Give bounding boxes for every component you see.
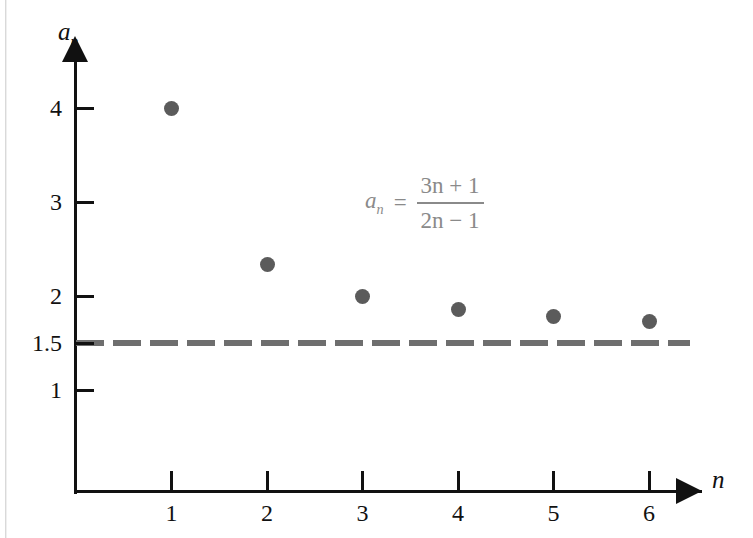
y-axis-tick-label: 3: [0, 189, 62, 216]
formula-lhs: an: [365, 188, 384, 218]
y-axis-title: an: [58, 18, 78, 50]
x-axis-tick-label: 2: [247, 500, 287, 527]
x-axis-tick: [170, 471, 173, 493]
y-axis-tick-label: 2: [0, 283, 62, 310]
formula-lhs-main: a: [365, 188, 377, 213]
y-axis-tick: [74, 201, 94, 204]
data-point: [642, 314, 657, 329]
sequence-plot-figure: an n 4321.51123456 an = 3n + 1 2n − 1: [0, 0, 753, 538]
formula-fraction-bar: [417, 202, 484, 204]
formula-denominator: 2n − 1: [417, 207, 484, 234]
y-axis-tick: [74, 295, 94, 298]
data-point: [355, 289, 370, 304]
y-axis-line: [74, 57, 77, 494]
y-axis-title-main: a: [58, 18, 71, 45]
x-axis-tick: [457, 471, 460, 493]
x-axis-tick: [552, 471, 555, 493]
limit-reference-line: [76, 340, 690, 346]
y-axis-tick-label: 4: [0, 95, 62, 122]
x-axis-tick: [361, 471, 364, 493]
x-axis-tick-label: 6: [629, 500, 669, 527]
x-axis-tick: [266, 471, 269, 493]
x-axis-tick-label: 3: [343, 500, 383, 527]
scan-edge-artifact-soft: [6, 0, 7, 538]
x-axis-tick-label: 5: [534, 500, 574, 527]
formula-lhs-subscript: n: [377, 201, 384, 217]
x-axis-tick: [648, 471, 651, 493]
x-axis-title: n: [712, 466, 725, 494]
x-axis-line: [74, 490, 702, 493]
x-axis-tick-label: 4: [438, 500, 478, 527]
data-point: [260, 257, 275, 272]
y-axis-tick-label: 1.5: [0, 330, 62, 357]
x-axis-tick-label: 1: [152, 500, 192, 527]
data-point: [451, 302, 466, 317]
formula-annotation: an = 3n + 1 2n − 1: [365, 172, 484, 234]
y-axis-title-subscript: n: [71, 32, 79, 49]
x-axis-arrow-icon: [676, 478, 702, 504]
y-axis-tick: [74, 107, 94, 110]
y-axis-tick-label: 1: [0, 377, 62, 404]
y-axis-tick: [74, 389, 94, 392]
data-point: [164, 101, 179, 116]
formula-numerator: 3n + 1: [417, 172, 484, 199]
y-axis-tick: [74, 342, 94, 345]
formula-equals: =: [394, 190, 407, 216]
formula-fraction: 3n + 1 2n − 1: [417, 172, 484, 234]
data-point: [546, 309, 561, 324]
